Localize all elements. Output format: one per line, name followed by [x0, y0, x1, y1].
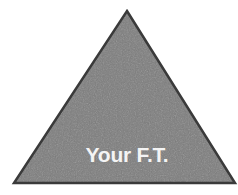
diagram-canvas: Your F.T. — [0, 0, 238, 195]
triangle-label: Your F.T. — [86, 143, 169, 166]
triangle-figure: Your F.T. — [0, 0, 238, 195]
